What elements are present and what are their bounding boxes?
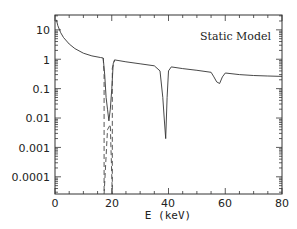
- chart-title: Static Model: [200, 30, 272, 43]
- y-tick-label: 10: [36, 24, 50, 37]
- x-tick-label: 60: [218, 197, 232, 210]
- x-tick-label: 80: [275, 197, 289, 210]
- y-tick-label: 0.0001: [12, 171, 51, 184]
- y-tick-label: 0.001: [19, 142, 51, 155]
- x-tick-label: 20: [105, 197, 119, 210]
- chart: 0 20 40 60 80 10 1 0.1 0.01 0.001 0.0001…: [0, 0, 297, 229]
- x-tick-label: 0: [52, 197, 59, 210]
- y-tick-label: 1: [43, 54, 50, 67]
- y-tick-label: 0.1: [33, 83, 51, 96]
- y-tick-label: 0.01: [26, 112, 51, 125]
- x-axis-label: E (keV): [145, 209, 191, 222]
